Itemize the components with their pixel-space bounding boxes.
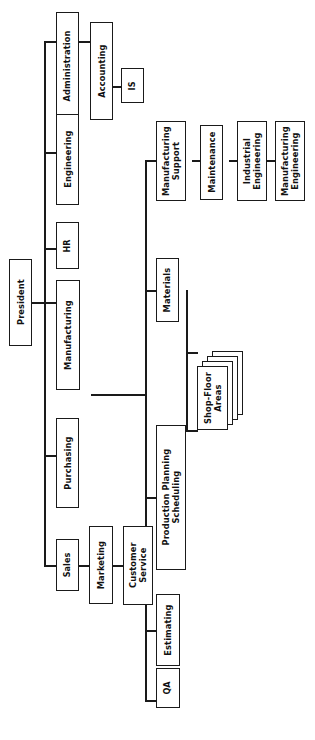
node-production-planning[interactable]: Production Planning Scheduling — [156, 425, 186, 570]
node-customer-service[interactable]: Customer Service — [123, 526, 153, 605]
node-maintenance[interactable]: Maintenance — [200, 125, 223, 200]
connector-materials-shopfloor — [186, 352, 198, 354]
node-accounting[interactable]: Accounting — [90, 22, 113, 120]
node-engineering[interactable]: Engineering — [56, 114, 79, 205]
node-purchasing[interactable]: Purchasing — [56, 418, 79, 508]
node-manufacturing-support-label: Manufacturing Support — [161, 126, 181, 196]
node-shop-floor-areas-label: Shop-Floor Areas — [202, 372, 222, 424]
node-administration-label: Administration — [62, 30, 72, 101]
node-industrial-engineering-label: Industrial Engineering — [242, 132, 262, 189]
connector-shopfloor-riser-lower — [186, 352, 188, 431]
connector-manufacturing-subtrunk — [91, 394, 146, 396]
connector-shopfloor-riser — [186, 290, 188, 353]
node-manufacturing[interactable]: Manufacturing — [56, 280, 80, 390]
node-industrial-engineering[interactable]: Industrial Engineering — [237, 121, 267, 201]
node-sales-label: Sales — [63, 553, 73, 578]
node-marketing-label: Marketing — [96, 541, 106, 589]
node-manufacturing-engineering[interactable]: Manufacturing Engineering — [275, 121, 305, 201]
node-hr[interactable]: HR — [56, 222, 79, 269]
node-estimating-label: Estimating — [163, 604, 173, 655]
node-president[interactable]: President — [9, 259, 32, 346]
node-hr-label: HR — [63, 239, 73, 252]
node-is[interactable]: IS — [121, 68, 144, 103]
node-materials-label: Materials — [162, 268, 172, 313]
connector-planning-shopfloor — [186, 430, 198, 432]
trunk-manufacturing-vertical — [145, 160, 147, 701]
node-materials[interactable]: Materials — [156, 258, 179, 322]
node-customer-service-label: Customer Service — [128, 543, 148, 589]
node-qa[interactable]: QA — [156, 668, 180, 708]
node-president-label: President — [15, 280, 25, 326]
node-manufacturing-engineering-label: Manufacturing Engineering — [280, 126, 300, 196]
node-qa-label: QA — [163, 681, 173, 694]
node-accounting-label: Accounting — [96, 44, 106, 97]
node-is-label: IS — [128, 81, 138, 90]
node-manufacturing-support[interactable]: Manufacturing Support — [156, 121, 186, 201]
node-engineering-label: Engineering — [62, 131, 72, 188]
org-chart: President Administration Accounting IS E… — [0, 0, 315, 740]
connector-president — [31, 302, 45, 304]
node-production-planning-label: Production Planning Scheduling — [161, 449, 181, 546]
node-maintenance-label: Maintenance — [206, 132, 216, 193]
node-marketing[interactable]: Marketing — [89, 526, 113, 604]
node-estimating[interactable]: Estimating — [156, 594, 180, 666]
node-shop-floor-areas[interactable]: Shop-Floor Areas — [197, 366, 228, 430]
node-manufacturing-label: Manufacturing — [63, 300, 73, 370]
node-purchasing-label: Purchasing — [62, 436, 72, 489]
node-sales[interactable]: Sales — [56, 539, 79, 591]
node-administration[interactable]: Administration — [56, 12, 79, 120]
